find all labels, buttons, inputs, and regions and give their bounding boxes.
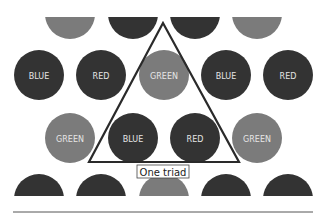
color-circle: RED — [263, 50, 313, 100]
circle-row: BLUEREDGREENBLUERED — [14, 50, 313, 100]
circle-row — [14, 174, 313, 214]
color-circle: BLUE — [108, 113, 158, 163]
color-circle — [170, 0, 220, 39]
color-circle: RED — [76, 50, 126, 100]
color-circle — [108, 0, 158, 39]
color-circle — [263, 174, 313, 214]
circle-row: GREENBLUEREDGREEN — [45, 113, 282, 163]
color-circle — [201, 174, 251, 214]
color-circle: GREEN — [232, 113, 282, 163]
color-circle: BLUE — [201, 50, 251, 100]
circle-label: BLUE — [29, 72, 49, 81]
color-circle: GREEN — [45, 113, 95, 163]
caption-label: One triad — [140, 167, 187, 178]
color-circle — [76, 174, 126, 214]
circle-label: RED — [187, 135, 204, 144]
circle-row — [45, 0, 282, 39]
circle-label: GREEN — [150, 72, 178, 81]
circle-label: RED — [93, 72, 110, 81]
circle-label: BLUE — [216, 72, 236, 81]
color-circle — [45, 0, 95, 39]
triad-diagram: BLUEREDGREENBLUEREDGREENBLUEREDGREEN One… — [0, 0, 325, 214]
caption-box: One triad — [137, 165, 189, 178]
color-circle: BLUE — [14, 50, 64, 100]
color-circle — [232, 0, 282, 39]
color-circle — [14, 174, 64, 214]
color-circles-grid: BLUEREDGREENBLUEREDGREENBLUEREDGREEN — [14, 0, 313, 214]
color-circle: RED — [170, 113, 220, 163]
color-circle — [139, 174, 189, 214]
circle-label: RED — [280, 72, 297, 81]
circle-label: BLUE — [123, 135, 143, 144]
circle-label: GREEN — [56, 135, 84, 144]
circle-label: GREEN — [243, 135, 271, 144]
